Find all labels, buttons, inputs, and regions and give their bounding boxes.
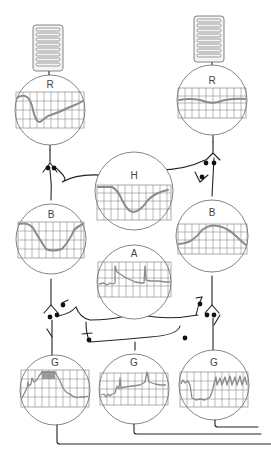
synapse-dot xyxy=(61,303,66,308)
synapse-dot xyxy=(46,166,51,171)
synapse-dot xyxy=(205,313,210,318)
ganglion-axons xyxy=(57,420,271,444)
cell-label: R xyxy=(208,75,215,86)
synapse-dot xyxy=(183,336,188,341)
cell-ganglion-right: G xyxy=(179,350,249,420)
cell-label: B xyxy=(209,207,216,218)
cell-label: G xyxy=(130,357,138,368)
synapse-dot xyxy=(204,161,209,166)
cell-bipolar-left: B xyxy=(16,204,86,274)
synapse-dot xyxy=(87,338,92,343)
cell-label: R xyxy=(46,79,53,90)
receptor-outer-segment-left xyxy=(33,25,63,71)
synapse-dot xyxy=(52,166,57,171)
cell-label: B xyxy=(48,209,55,220)
cell-horizontal: H xyxy=(95,152,173,230)
synapse-dot xyxy=(55,313,60,318)
cell-ganglion-left: G xyxy=(20,355,90,425)
synapse-dot xyxy=(200,175,205,180)
synapse-dot xyxy=(212,313,217,318)
cell-receptor-right: R xyxy=(177,65,247,135)
synapse-dot xyxy=(198,302,203,307)
receptor-outer-segment-right xyxy=(194,16,224,62)
cell-receptor-left: R xyxy=(15,75,85,145)
retina-diagram: R R H B xyxy=(0,0,271,459)
cell-label: A xyxy=(131,248,138,259)
cell-label: G xyxy=(210,357,218,368)
synapse-dot xyxy=(212,161,217,166)
cell-amacrine: A xyxy=(97,245,171,319)
synapse-dot xyxy=(48,315,53,320)
cell-ganglion-middle: G xyxy=(99,354,169,424)
cell-label: G xyxy=(51,357,59,368)
cell-bipolar-right: B xyxy=(176,200,248,272)
cell-label: H xyxy=(130,170,137,181)
